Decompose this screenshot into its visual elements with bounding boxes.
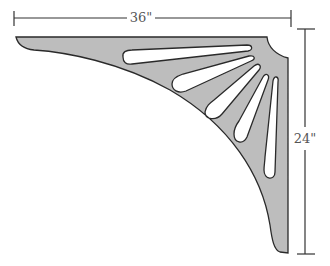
width-label: 36": [130, 10, 153, 25]
bracket-diagram: 36" 24": [0, 0, 330, 266]
width-dimension: 36": [14, 10, 291, 27]
height-label: 24": [294, 131, 317, 146]
bracket-body: [16, 37, 288, 253]
height-dimension: 24": [294, 29, 317, 254]
